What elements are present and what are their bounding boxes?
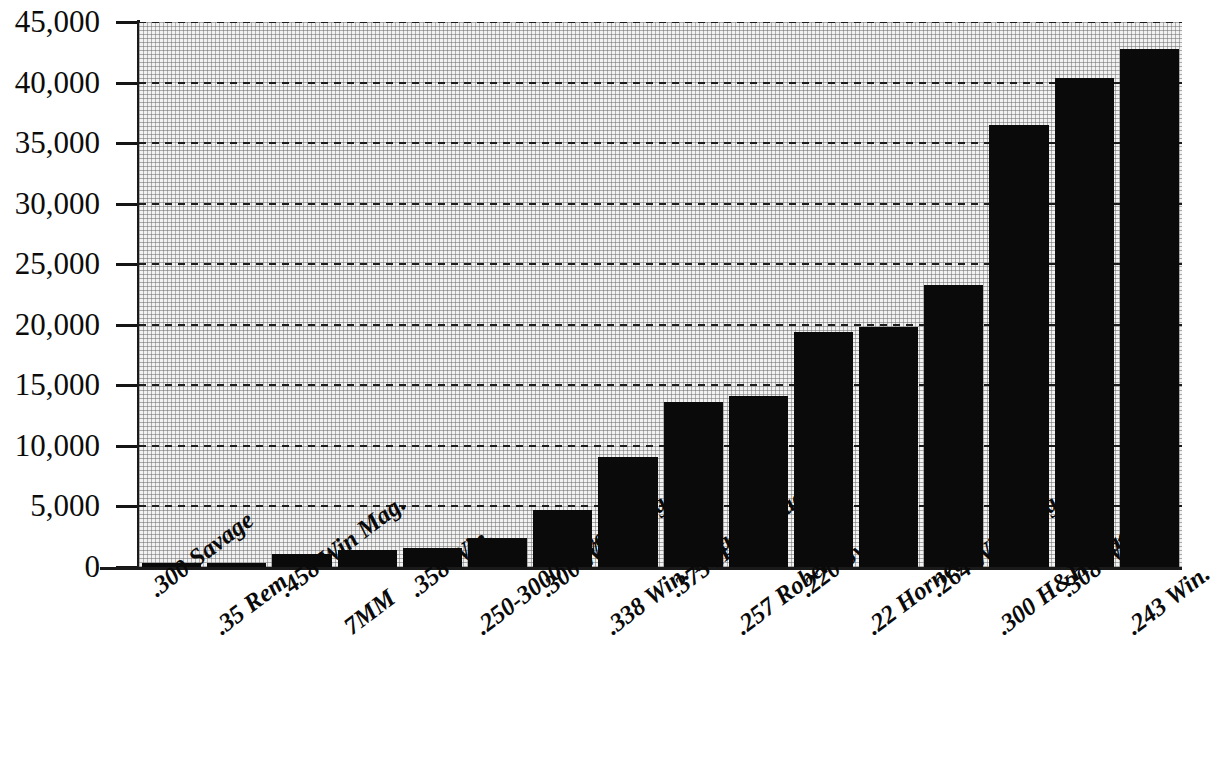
x-axis-tick-label: .243 Win.	[1121, 560, 1215, 640]
gridline	[139, 82, 1182, 84]
y-axis-tick-label: 15,000	[15, 369, 100, 400]
y-axis-tick-label: 5,000	[30, 490, 100, 521]
y-axis-tick-label: 30,000	[15, 188, 100, 219]
y-axis-tick-label: 10,000	[15, 430, 100, 461]
y-axis-tick-label: 40,000	[15, 67, 100, 98]
bar	[1120, 49, 1179, 567]
x-axis: .300 Savage.35 Rem.458 Win Mag.7MM.358 W…	[0, 567, 1182, 782]
bar	[794, 332, 853, 567]
gridline	[139, 22, 1182, 23]
x-axis-tick-label: 7MM	[339, 585, 400, 640]
y-axis: 45,00040,00035,00030,00025,00020,00015,0…	[0, 0, 122, 580]
bar	[924, 285, 983, 567]
y-axis-tick-label: 25,000	[15, 248, 100, 279]
y-axis-tick-label: 35,000	[15, 127, 100, 158]
y-axis-tick-label: 20,000	[15, 309, 100, 340]
bar	[1055, 78, 1114, 567]
y-axis-tick-label: 45,000	[15, 6, 100, 37]
